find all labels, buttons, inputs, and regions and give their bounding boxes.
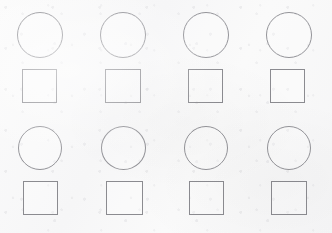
circle-shape (183, 12, 229, 58)
shape-grid-canvas (0, 0, 332, 233)
square-shape (271, 181, 307, 215)
square-shape (22, 69, 57, 103)
circle-shape (266, 12, 312, 58)
square-shape (105, 69, 141, 103)
circle-shape (184, 126, 228, 170)
square-shape (188, 69, 223, 103)
circle-shape (18, 126, 62, 170)
square-shape (270, 69, 305, 103)
square-shape (23, 181, 58, 215)
circle-shape (101, 126, 146, 170)
circle-shape (267, 126, 311, 170)
square-shape (106, 181, 143, 215)
circle-shape (17, 12, 63, 58)
square-shape (189, 181, 224, 215)
circle-shape (100, 12, 146, 58)
